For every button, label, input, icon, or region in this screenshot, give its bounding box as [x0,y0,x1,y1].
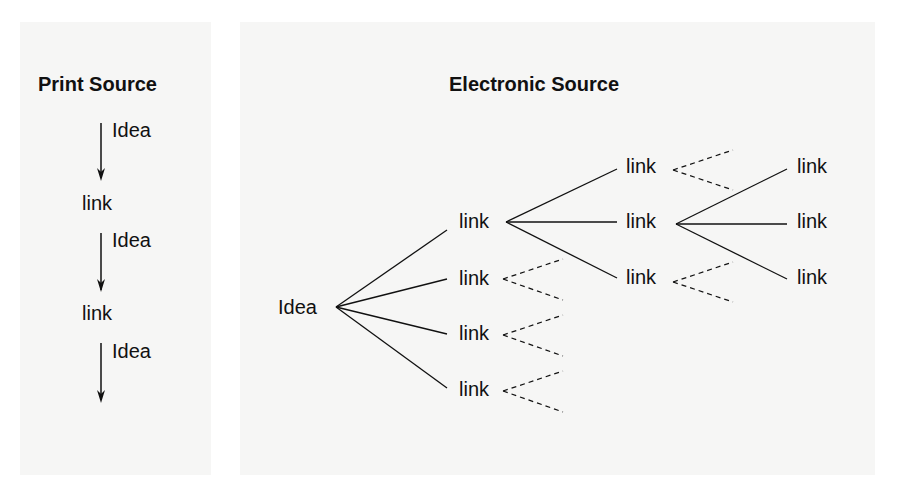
dashed-connectors [503,150,733,412]
solid-connectors [336,169,787,388]
print-arrows [97,123,105,403]
connector-lines [0,0,904,502]
